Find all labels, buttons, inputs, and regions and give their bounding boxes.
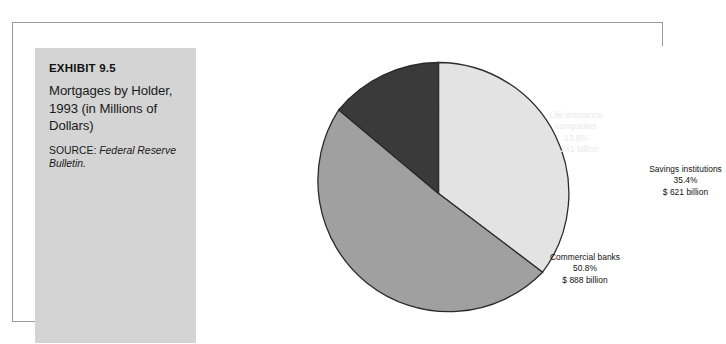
pie-label-savings-institutions-name: Savings institutions [628,164,726,175]
pie-label-commercial-banks-amount: $ 888 billion [521,275,649,286]
pie-label-life-insurance-name-line2: companies [526,121,626,132]
pie-label-commercial-banks: Commercial banks 50.8% $ 888 billion [521,252,649,286]
pie-label-commercial-banks-name: Commercial banks [521,252,649,263]
pie-label-life-insurance: Life insurance companies 13.8% $ 241 bil… [526,110,626,156]
chart-area: Life insurance companies 13.8% $ 241 bil… [196,46,675,344]
pie-svg [305,60,572,327]
exhibit-source: SOURCE: Federal Reserve Bulletin. [49,144,183,170]
pie-label-commercial-banks-percent: 50.8% [521,263,649,274]
pie-label-savings-institutions-amount: $ 621 billion [628,187,726,198]
figure-frame: EXHIBIT 9.5 Mortgages by Holder, 1993 (i… [12,22,663,322]
source-label: SOURCE: [49,145,99,156]
pie-chart [305,60,572,327]
pie-label-savings-institutions-percent: 35.4% [628,175,726,186]
pie-label-life-insurance-name-line1: Life insurance [526,110,626,121]
pie-label-savings-institutions: Savings institutions 35.4% $ 621 billion [628,164,726,198]
exhibit-title: Mortgages by Holder, 1993 (in Millions o… [49,82,183,135]
exhibit-number: EXHIBIT 9.5 [49,62,183,75]
caption-panel: EXHIBIT 9.5 Mortgages by Holder, 1993 (i… [35,48,196,343]
pie-label-life-insurance-amount: $ 241 billion [526,144,626,155]
pie-label-life-insurance-percent: 13.8% [526,133,626,144]
